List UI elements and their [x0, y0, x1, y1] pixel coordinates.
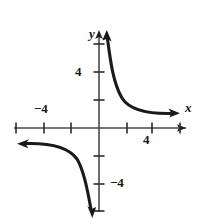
coordinate-plane: [0, 0, 201, 218]
curve-branch-quadrant-3: [26, 143, 91, 209]
x-axis-label: x: [185, 101, 192, 114]
y-tick-label-pos4: 4: [75, 65, 81, 78]
curve-branch-quadrant-1: [108, 39, 173, 114]
y-tick-label-neg4: −4: [110, 176, 124, 189]
x-tick-label-neg4: −4: [34, 102, 48, 115]
hyperbola-graph-figure: y x 4 −4 −4 4: [0, 0, 201, 218]
y-axis-label: y: [89, 27, 95, 40]
x-tick-label-pos4: 4: [143, 133, 149, 146]
